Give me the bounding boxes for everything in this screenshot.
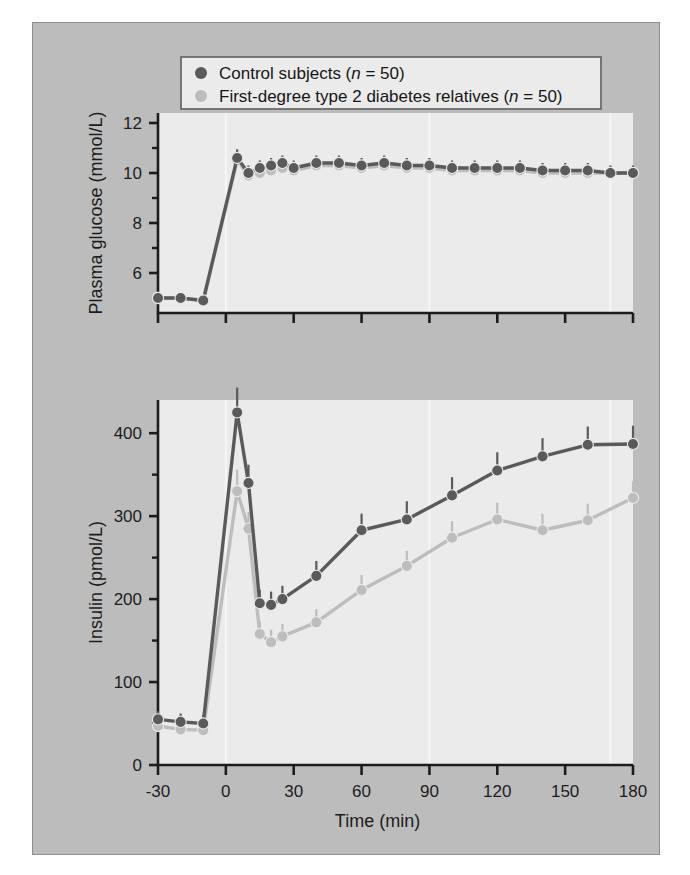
glucose-panel-data-point — [198, 295, 209, 306]
insulin-panel-data-point — [356, 584, 367, 595]
insulin-panel-data-point — [254, 628, 265, 639]
insulin-panel-data-point — [537, 525, 548, 536]
insulin-panel-y-tick-label: 300 — [114, 507, 142, 526]
insulin-panel-data-point — [446, 532, 457, 543]
glucose-panel-data-point — [605, 167, 616, 178]
insulin-panel-plot-background — [158, 400, 633, 765]
insulin-panel-data-point — [175, 716, 186, 727]
insulin-panel-x-tick-label: 180 — [619, 782, 647, 801]
insulin-panel-data-point — [152, 714, 163, 725]
insulin-panel-data-point — [537, 451, 548, 462]
insulin-panel-data-point — [492, 465, 503, 476]
insulin-panel-y-tick-label: 200 — [114, 590, 142, 609]
glucose-panel-data-point — [175, 292, 186, 303]
insulin-panel-data-point — [492, 514, 503, 525]
glucose-panel-data-point — [232, 152, 243, 163]
insulin-panel-x-tick-label: 150 — [551, 782, 579, 801]
glucose-panel-data-point — [356, 160, 367, 171]
chart-canvas: 681012Plasma glucose (mmol/L)01002003004… — [0, 0, 690, 875]
insulin-panel-x-tick-label: 0 — [221, 782, 230, 801]
insulin-panel-y-axis-title: Insulin (pmol/L) — [86, 521, 106, 644]
legend-marker-relatives — [195, 90, 207, 102]
insulin-panel-data-point — [627, 438, 638, 449]
figure-root: 681012Plasma glucose (mmol/L)01002003004… — [0, 0, 690, 875]
insulin-panel-data-point — [254, 598, 265, 609]
legend-label-control: Control subjects (n = 50) — [219, 64, 405, 83]
insulin-panel-y-tick-label: 0 — [133, 756, 142, 775]
glucose-panel-y-tick-label: 6 — [133, 264, 142, 283]
insulin-panel-data-point — [401, 514, 412, 525]
glucose-panel-data-point — [401, 160, 412, 171]
insulin-panel-data-point — [311, 570, 322, 581]
glucose-panel-data-point — [560, 165, 571, 176]
insulin-panel-x-axis-title: Time (min) — [335, 811, 420, 831]
legend: Control subjects (n = 50)First-degree ty… — [181, 57, 601, 109]
glucose-panel-data-point — [277, 157, 288, 168]
insulin-panel-data-point — [311, 617, 322, 628]
insulin-panel-data-point — [277, 593, 288, 604]
glucose-panel-data-point — [446, 162, 457, 173]
insulin-panel-x-tick-label: -30 — [146, 782, 171, 801]
insulin-panel-y-tick-label: 100 — [114, 673, 142, 692]
glucose-panel-data-point — [254, 162, 265, 173]
glucose-panel-data-point — [288, 162, 299, 173]
glucose-panel-data-point — [627, 167, 638, 178]
glucose-panel-y-tick-label: 10 — [123, 164, 142, 183]
glucose-panel-data-point — [265, 160, 276, 171]
glucose-panel-data-point — [379, 157, 390, 168]
insulin-panel-data-point — [446, 490, 457, 501]
insulin-panel-data-point — [627, 492, 638, 503]
insulin-panel-data-point — [401, 560, 412, 571]
glucose-panel-data-point — [333, 157, 344, 168]
glucose-panel-data-point — [424, 160, 435, 171]
insulin-panel-x-tick-label: 120 — [483, 782, 511, 801]
glucose-panel-plot-background — [158, 113, 633, 313]
insulin-panel-data-point — [582, 439, 593, 450]
glucose-panel-y-axis-title: Plasma glucose (mmol/L) — [86, 111, 106, 314]
insulin-panel-y-tick-label: 400 — [114, 424, 142, 443]
glucose-panel-data-point — [582, 165, 593, 176]
glucose-panel-data-point — [514, 162, 525, 173]
legend-marker-control — [195, 67, 207, 79]
insulin-panel-data-point — [265, 599, 276, 610]
glucose-panel-data-point — [492, 162, 503, 173]
glucose-panel-data-point — [152, 292, 163, 303]
insulin-panel-data-point — [277, 631, 288, 642]
insulin-panel: 0100200300400-300306090120150180Insulin … — [86, 388, 647, 831]
insulin-panel-data-point — [232, 407, 243, 418]
insulin-panel-x-tick-label: 60 — [352, 782, 371, 801]
insulin-panel-data-point — [243, 477, 254, 488]
insulin-panel-x-tick-label: 30 — [284, 782, 303, 801]
legend-label-relatives: First-degree type 2 diabetes relatives (… — [219, 87, 563, 106]
glucose-panel-data-point — [469, 162, 480, 173]
glucose-panel-data-point — [537, 165, 548, 176]
insulin-panel-data-point — [356, 525, 367, 536]
insulin-panel-data-point — [582, 515, 593, 526]
insulin-panel-data-point — [198, 718, 209, 729]
glucose-panel-data-point — [243, 167, 254, 178]
glucose-panel: 681012Plasma glucose (mmol/L) — [86, 111, 639, 323]
insulin-panel-x-tick-label: 90 — [420, 782, 439, 801]
glucose-panel-y-tick-label: 12 — [123, 114, 142, 133]
glucose-panel-data-point — [311, 157, 322, 168]
insulin-panel-data-point — [265, 637, 276, 648]
glucose-panel-y-tick-label: 8 — [133, 214, 142, 233]
insulin-panel-data-point — [232, 486, 243, 497]
